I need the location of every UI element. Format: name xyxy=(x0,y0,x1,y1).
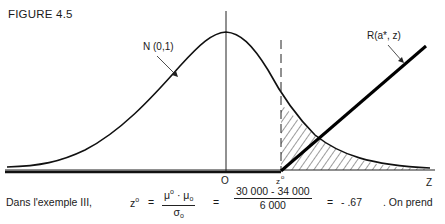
equation-lhs: zo xyxy=(130,196,139,209)
curve-label-arrow xyxy=(157,56,176,75)
lhs-sup: o xyxy=(135,196,139,203)
normal-curve xyxy=(7,32,430,168)
fraction-standardized: μo · μo σo xyxy=(162,185,195,222)
fraction-denominator: 6 000 xyxy=(234,199,312,212)
regret-line xyxy=(281,46,426,171)
equals-sign: = xyxy=(327,196,333,208)
result-value: - .67 xyxy=(341,196,362,208)
equals-sign: = xyxy=(148,196,154,208)
equals-sign: = xyxy=(213,196,219,208)
origin-label: O xyxy=(221,175,229,186)
axis-end-label: Z xyxy=(426,177,432,188)
figure-plot: N (0,1) R(a*, z) O z o Z xyxy=(0,0,445,224)
fraction-numerator: μo · μo xyxy=(162,185,195,206)
line-label-arrow xyxy=(388,45,402,61)
fraction-values: 30 000 - 34 000 6 000 xyxy=(234,185,312,212)
trailing-text: . On prend xyxy=(383,196,433,208)
curve-label: N (0,1) xyxy=(143,41,174,52)
line-label: R(a*, z) xyxy=(367,30,401,41)
fraction-denominator: σo xyxy=(162,206,195,222)
equation-lead: Dans l'exemple III, xyxy=(6,196,92,208)
threshold-sup: o xyxy=(281,174,285,180)
hatched-tail-area xyxy=(281,100,431,171)
fraction-numerator: 30 000 - 34 000 xyxy=(234,185,312,199)
